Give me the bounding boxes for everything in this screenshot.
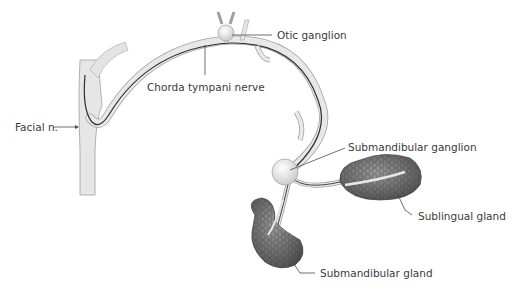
- otic-ganglion: [218, 12, 234, 42]
- label-submandibular-gland: Submandibular gland: [320, 267, 433, 279]
- label-submandibular-ganglion: Submandibular ganglion: [348, 141, 477, 153]
- leader-lines: [53, 35, 412, 273]
- label-chorda-tympani: Chorda tympani nerve: [147, 81, 265, 93]
- chorda-tympani-diagram: Otic ganglion Chorda tympani nerve Facia…: [0, 0, 512, 293]
- sublingual-gland: [340, 154, 421, 200]
- label-otic-ganglion: Otic ganglion: [277, 29, 347, 41]
- submandibular-gland: [251, 198, 303, 268]
- label-facial-nerve: Facial n.: [15, 121, 58, 133]
- label-sublingual-gland: Sublingual gland: [418, 210, 506, 222]
